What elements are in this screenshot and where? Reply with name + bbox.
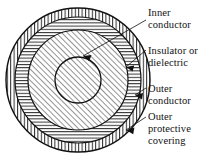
- label-outer-protective-covering-line1: Outer: [148, 111, 173, 122]
- label-outer-conductor-line1: Outer: [148, 83, 173, 94]
- label-outer-protective-covering-line2: protective: [148, 123, 191, 134]
- label-outer-conductor-line2: conductor: [148, 95, 191, 106]
- label-inner-conductor-line2: conductor: [148, 19, 191, 30]
- label-insulator-dielectric-line2: dielectric: [148, 57, 188, 68]
- label-inner-conductor-line1: Inner: [148, 7, 171, 18]
- figure-canvas: Inner conductor Insulator or dielectric …: [0, 0, 212, 162]
- label-outer-protective-covering-line3: covering: [148, 135, 186, 146]
- coax-cross-section-diagram: Inner conductor Insulator or dielectric …: [0, 0, 212, 162]
- label-insulator-dielectric-line1: Insulator or: [148, 45, 198, 56]
